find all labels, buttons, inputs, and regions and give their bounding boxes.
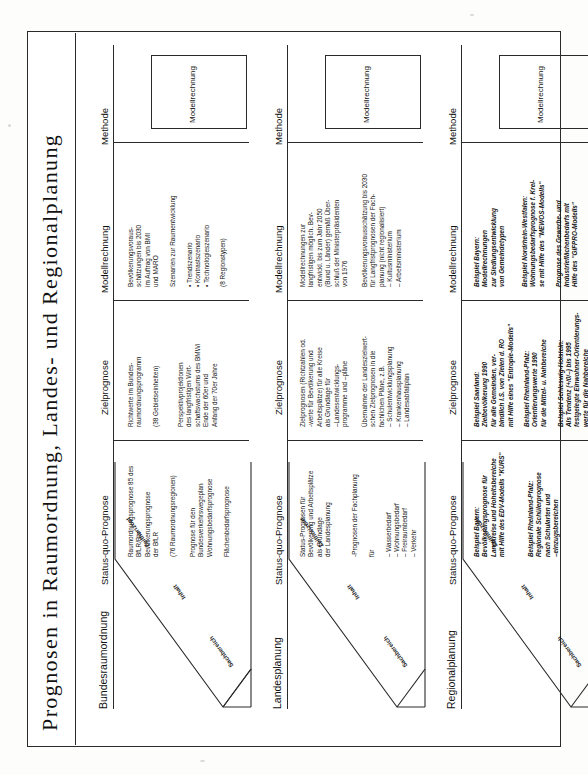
row-label-bundesraumordnung: Bundesraumordnung — [97, 611, 109, 709]
cell-regional-ziel: Beispiel Saarland: Zielbevölkerung 1990 … — [473, 311, 515, 427]
column-separator — [287, 440, 423, 441]
column-separator — [461, 142, 588, 143]
row-regionalplanung: Regionalplanung Sachbereich Inhalt Zeith… — [461, 45, 588, 709]
cell-landes-status-quo: Status-Prognosen für Bevölkerung und Arb… — [299, 453, 333, 557]
cell-regional-ziel-2: Beispiel Rheinland-Pfalz: Orientierungsw… — [523, 305, 588, 427]
header-methode-row1: Methode — [99, 108, 110, 145]
cell-regional-methode: Modellrechnung — [537, 53, 545, 123]
cell-landes-ziel-2: Übernahme der Landeszielwert- schen Ziel… — [361, 307, 411, 427]
methode-box-bundes — [151, 55, 247, 129]
cell-bundes-ziel-2: Perspektivprojektionen des langfristigen… — [177, 315, 219, 427]
header-status-quo-row2: Status-quo-Prognose — [273, 495, 284, 585]
column-separator — [113, 440, 249, 441]
column-separator — [287, 300, 423, 301]
row-label-landesplanung: Landesplanung — [271, 637, 283, 709]
row-bundesraumordnung: Bundesraumordnung Sachbereich Inhalt Zei… — [113, 45, 261, 709]
cell-bundes-modell: Bevölkerungsvoraus- schätzungen bis 2030… — [127, 159, 228, 287]
cell-landes-status-quo-2: -Prognosen der Fachplanung für – Wasserb… — [351, 453, 418, 557]
column-separator — [461, 300, 588, 301]
scan-speckle — [200, 760, 205, 762]
cell-bundes-status-quo-2: Prognose für den Bundesverkehrswegeplan … — [189, 453, 231, 557]
scan-speckle — [470, 14, 474, 16]
cell-regional-modell-2: Beispiel Nordrhein-Westfalen: Wohnungsbe… — [521, 151, 580, 287]
column-separator — [113, 142, 249, 143]
methode-box-landes — [325, 55, 421, 129]
header-methode-row3: Methode — [447, 108, 458, 145]
header-methode-row2: Methode — [273, 108, 284, 145]
header-modell-row1: Modellrechnung — [99, 225, 110, 293]
scan-speckle — [8, 124, 11, 127]
cell-landes-modell-2: Bevölkerungsvorausschätzung bis 2030 für… — [361, 151, 403, 287]
cell-regional-status-quo-2: Beispiel Rheinland-Pfalz: Regionale Schü… — [527, 449, 561, 557]
row-label-regionalplanung: Regionalplanung — [445, 630, 457, 709]
page-title: Prognosen in Raumordnung, Landes- und Re… — [37, 47, 63, 731]
row-landesplanung: Landesplanung Sachbereich Inhalt Zeithor… — [287, 45, 435, 709]
header-ziel-row2: Zielprognose — [273, 360, 284, 415]
scanned-page: Prognosen in Raumordnung, Landes- und Re… — [0, 0, 588, 775]
cell-bundes-methode: Modellrechnung — [189, 53, 197, 123]
header-modell-row2: Modellrechnung — [273, 225, 284, 293]
title-underline — [75, 33, 76, 745]
cell-bundes-ziel: Richtwerte im Bundes- raumordnungsprogra… — [127, 319, 161, 427]
cell-bundes-status-quo: Raumordnungsprognose 85 des BfLR/Bbr Bev… — [127, 453, 177, 557]
header-ziel-row1: Zielprognose — [99, 360, 110, 415]
column-separator — [113, 300, 249, 301]
landscape-canvas: Prognosen in Raumordnung, Landes- und Re… — [29, 33, 559, 745]
cell-landes-ziel: Zielprognosen (Richtzahlen od. -werte fü… — [299, 315, 349, 427]
header-modell-row3: Modellrechnung — [447, 225, 458, 293]
column-separator — [287, 142, 423, 143]
cell-landes-modell: Modellrechnungen zur langfristigen mögli… — [299, 157, 349, 287]
cell-regional-modell: Beispiel Bayern: Modellrechnungen zur Si… — [473, 161, 507, 287]
header-status-quo-row1: Status-quo-Prognose — [99, 495, 110, 585]
header-ziel-row3: Zielprognose — [447, 360, 458, 415]
column-separator — [461, 440, 588, 441]
cell-landes-methode: Modellrechnung — [363, 53, 371, 123]
header-status-quo-row3: Status-quo-Prognose — [447, 495, 458, 585]
cell-regional-status-quo: Beispiel Bayern: Bevölkerungsprognose fü… — [473, 449, 507, 557]
diagram-frame: Prognosen in Raumordnung, Landes- und Re… — [27, 31, 561, 747]
